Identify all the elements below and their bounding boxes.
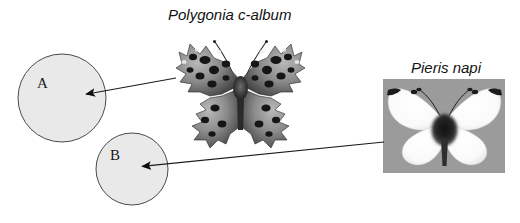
- circle-b[interactable]: [96, 133, 168, 205]
- pieris-species-label: Pieris napi: [411, 59, 482, 76]
- pieris-photo: [383, 79, 505, 173]
- polygonia-antenna-club-left: [213, 40, 216, 43]
- circle-b-group[interactable]: B: [96, 133, 168, 205]
- circle-a-group[interactable]: A: [18, 54, 106, 142]
- polygonia-antenna-club-right: [265, 40, 268, 43]
- circle-a[interactable]: [18, 54, 106, 142]
- polygonia-species-label: Polygonia c-album: [168, 6, 291, 23]
- polygonia-thorax: [233, 76, 248, 100]
- polygonia-photo: [175, 30, 307, 150]
- polygonia-abdomen: [237, 98, 244, 130]
- pieris-antenna-club-right: [467, 88, 472, 92]
- butterfly-comparison-figure: Polygonia c-album Pieris napi A B: [0, 0, 520, 223]
- circle-a-label: A: [37, 75, 48, 91]
- pieris-antenna-club-left: [416, 88, 421, 92]
- circle-b-label: B: [110, 147, 120, 163]
